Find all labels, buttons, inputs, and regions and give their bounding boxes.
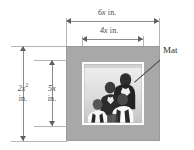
label-outer-width: 6x in. <box>98 8 116 17</box>
arrow-outer-height-top <box>20 46 26 51</box>
family-photo <box>84 64 142 123</box>
arrow-inner-width-right <box>138 36 143 42</box>
extension-line-outer-right <box>159 18 160 48</box>
label-outer-height: 2x2in. <box>11 84 35 103</box>
picture-frame-mat-diagram: 6x in. 4x in. 2x2in. 5xin. <box>0 0 194 150</box>
extension-line-outer-bottom <box>11 141 67 142</box>
arrow-inner-height-bottom <box>49 121 55 126</box>
arrow-outer-width-right <box>154 18 159 24</box>
arrow-outer-height-bottom <box>20 136 26 141</box>
dimension-line-inner-width <box>83 39 143 40</box>
arrow-inner-width-left <box>82 36 87 42</box>
extension-line-inner-bottom <box>34 126 67 127</box>
label-inner-width: 4x in. <box>100 26 118 35</box>
dimension-line-outer-width <box>67 21 159 22</box>
label-inner-height: 5xin. <box>42 84 62 103</box>
arrow-outer-width-left <box>66 18 71 24</box>
arrow-inner-height-top <box>49 60 55 65</box>
photo-border <box>82 62 144 125</box>
mat-callout-label: Mat <box>163 45 178 55</box>
mat-board <box>66 46 160 141</box>
